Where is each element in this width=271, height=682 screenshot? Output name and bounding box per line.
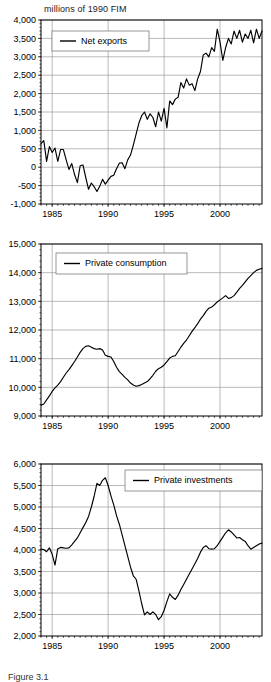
y-tick-label: 3,000 — [13, 588, 36, 598]
y-tick-label: 4,000 — [13, 15, 36, 25]
legend-label: Private consumption — [85, 258, 167, 268]
chart-legend: Net exports — [52, 31, 149, 51]
y-tick-label: 3,500 — [13, 567, 36, 577]
x-tick-label: 2000 — [210, 209, 230, 219]
y-tick-label: 14,000 — [8, 268, 36, 278]
y-tick-label: 5,500 — [13, 481, 36, 491]
data-series-line — [41, 478, 262, 620]
chart-panel-private-consumption: 9,00010,00011,00012,00013,00014,00015,00… — [0, 238, 271, 436]
legend-label: Net exports — [81, 36, 128, 46]
y-tick-label: 2,000 — [13, 89, 36, 99]
chart-legend: Private consumption — [56, 253, 187, 274]
y-tick-label: 2,500 — [13, 70, 36, 80]
chart-net-exports: -1,000-50005001,0001,5002,0002,5003,0003… — [0, 14, 271, 224]
y-tick-label: 10,000 — [8, 383, 36, 393]
y-tick-label: 5,000 — [13, 502, 36, 512]
x-tick-label: 1985 — [42, 209, 62, 219]
y-tick-label: 3,500 — [13, 34, 36, 44]
y-tick-label: 12,000 — [8, 325, 36, 335]
x-tick-label: 1995 — [154, 421, 174, 431]
x-tick-label: 1985 — [42, 421, 62, 431]
y-tick-label: 4,500 — [13, 524, 36, 534]
y-tick-label: 13,000 — [8, 297, 36, 307]
x-tick-label: 1990 — [98, 209, 118, 219]
figure-caption: Figure 3.1 — [8, 672, 49, 682]
x-tick-label: 1990 — [98, 641, 118, 651]
x-tick-label: 1995 — [154, 641, 174, 651]
legend-label: Private investments — [154, 475, 233, 485]
chart-private-investments: 2,0002,5003,0003,5004,0004,5005,0005,500… — [0, 458, 271, 656]
x-tick-label: 1990 — [98, 421, 118, 431]
x-tick-label: 1995 — [154, 209, 174, 219]
chart-private-consumption: 9,00010,00011,00012,00013,00014,00015,00… — [0, 238, 271, 436]
y-tick-label: 1,000 — [13, 126, 36, 136]
y-tick-label: -500 — [18, 181, 36, 191]
y-tick-label: 2,000 — [13, 631, 36, 641]
y-tick-label: 1,500 — [13, 107, 36, 117]
chart-panel-private-investments: 2,0002,5003,0003,5004,0004,5005,0005,500… — [0, 458, 271, 656]
y-tick-label: 500 — [21, 144, 36, 154]
y-tick-label: 9,000 — [13, 411, 36, 421]
y-tick-label: 4,000 — [13, 545, 36, 555]
units-title: millions of 1990 FIM — [44, 4, 127, 14]
x-tick-label: 1985 — [42, 641, 62, 651]
data-series-line — [41, 268, 262, 405]
y-tick-label: 3,000 — [13, 52, 36, 62]
y-tick-label: 11,000 — [9, 354, 36, 364]
y-tick-label: 6,000 — [13, 459, 36, 469]
y-tick-label: 2,500 — [13, 610, 36, 620]
y-tick-label: 0 — [31, 162, 36, 172]
chart-panel-net-exports: -1,000-50005001,0001,5002,0002,5003,0003… — [0, 14, 271, 224]
x-tick-label: 2000 — [210, 641, 230, 651]
y-tick-label: 15,000 — [8, 239, 36, 249]
y-tick-label: -1,000 — [10, 199, 36, 209]
chart-legend: Private investments — [125, 470, 262, 491]
x-tick-label: 2000 — [210, 421, 230, 431]
